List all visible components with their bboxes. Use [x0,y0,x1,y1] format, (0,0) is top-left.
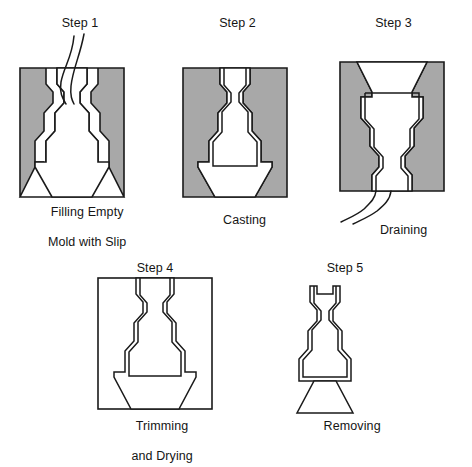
step-5-caption-line-1: Removing [324,419,381,433]
step-4-caption-line-1: Trimming [136,419,188,433]
step-2-drawing [160,0,315,230]
step-2-caption: Casting [160,198,315,243]
step-4-caption: Trimming and Drying [60,404,250,467]
step-5-caption: Removing [250,404,440,449]
cast-vessel-outer-step-5 [299,286,351,381]
step-3-drawing [315,0,472,235]
step-1-caption-line-1: Filling Empty [51,205,124,219]
step-3-caption: Draining [318,208,472,253]
step-2-caption-line-1: Casting [223,213,266,227]
step-3-caption-line-1: Draining [380,223,427,237]
step-3-figure [315,0,472,235]
step-4-caption-line-2: and Drying [131,449,192,463]
step-2-figure [160,0,315,230]
step-1-caption-line-2: Mold with Slip [48,235,127,249]
